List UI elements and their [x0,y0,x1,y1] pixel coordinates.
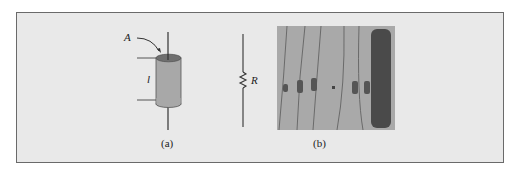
resistors-photo [277,26,395,130]
caption-b: (b) [313,137,326,149]
resistor-icon [240,34,246,127]
panel-a-diagram [0,0,520,174]
length-label: l [147,73,150,85]
cylinder-icon [156,54,181,108]
area-label: A [124,31,131,43]
resistance-label: R [251,74,258,86]
caption-a: (a) [161,137,173,149]
